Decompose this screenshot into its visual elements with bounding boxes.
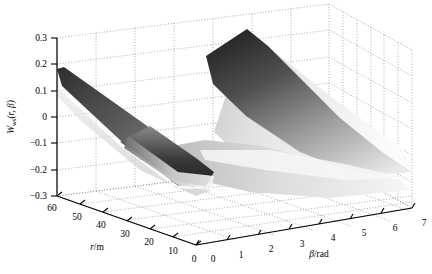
svg-text:r/m: r/m [90,242,104,252]
beta-tick-6: 6 [393,223,398,233]
surface-mesh [57,29,412,198]
beta-tick-5: 5 [362,228,367,238]
z-tick-3: 0 [42,112,47,122]
axis-beta-ticks [196,203,415,245]
z-tick-5: −0.2 [30,165,47,175]
beta-tick-7: 7 [422,218,427,228]
axis-z-ticks [51,38,57,196]
r-tick-5: 10 [168,246,178,256]
axis-beta-label: β/rad [308,249,329,259]
axis-r-label: r/m [90,242,104,252]
axis-z-label: Wws(r, β) [6,100,17,134]
plot-canvas: 0.3 0.2 0.1 0 −0.1 −0.2 −0.3 60 50 40 30… [0,0,432,274]
svg-text:β/rad: β/rad [308,249,329,259]
r-tick-0: 60 [47,203,57,213]
r-tick-3: 30 [120,229,130,239]
r-tick-6: 0 [192,254,197,264]
r-tick-1: 50 [72,212,82,222]
z-tick-1: 0.2 [35,59,47,69]
beta-tick-2: 2 [269,244,274,254]
beta-tick-4: 4 [331,233,336,243]
z-label-args: (r, β) [6,100,17,118]
r-tick-4: 20 [144,237,154,247]
figure-3d-surface-plot: 0.3 0.2 0.1 0 −0.1 −0.2 −0.3 60 50 40 30… [0,0,432,274]
beta-tick-3: 3 [300,239,305,249]
beta-label-unit: /rad [314,249,329,259]
r-label-unit: /m [94,242,105,252]
z-tick-4: −0.1 [30,138,47,148]
beta-tick-0: 0 [211,254,216,264]
axis-z-ticklabels: 0.3 0.2 0.1 0 −0.1 −0.2 −0.3 [30,33,47,201]
z-tick-2: 0.1 [35,86,47,96]
svg-text:Wws(r, β): Wws(r, β) [6,100,17,134]
axis-r-ticklabels: 60 50 40 30 20 10 0 [47,203,196,264]
z-tick-6: −0.3 [30,191,47,201]
z-tick-0: 0.3 [35,33,47,43]
beta-tick-1: 1 [239,250,244,260]
r-tick-2: 40 [96,220,106,230]
